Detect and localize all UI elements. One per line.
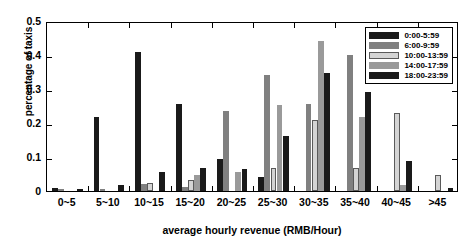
bar xyxy=(52,188,58,191)
legend-label: 6:00-9:59 xyxy=(404,42,439,50)
x-axis-tick xyxy=(171,186,172,191)
legend-item: 0:00-5:59 xyxy=(369,31,448,40)
legend-label: 0:00-5:59 xyxy=(404,32,439,40)
bar xyxy=(188,180,194,191)
bar xyxy=(258,177,264,191)
x-axis-tick xyxy=(418,186,419,191)
y-axis-tick xyxy=(47,91,52,92)
x-axis-tick xyxy=(335,186,336,191)
bar xyxy=(147,183,153,191)
bar xyxy=(100,189,106,191)
legend-label: 10:00-13:59 xyxy=(404,52,448,60)
x-axis-label: average hourly revenue (RMB/Hour) xyxy=(46,224,458,236)
bar xyxy=(176,104,182,191)
bar xyxy=(264,75,270,191)
bar xyxy=(353,168,359,191)
y-axis-tick xyxy=(452,159,457,160)
legend-item: 6:00-9:59 xyxy=(369,41,448,50)
y-axis-tick-label: 0.1 xyxy=(0,152,41,163)
x-axis-tick xyxy=(294,23,295,28)
x-axis-tick xyxy=(335,23,336,28)
x-axis-tick xyxy=(129,186,130,191)
bar xyxy=(324,73,330,191)
x-axis-tick xyxy=(171,23,172,28)
bar xyxy=(406,161,412,191)
bar xyxy=(141,184,147,191)
x-axis-tick xyxy=(129,23,130,28)
bar xyxy=(347,55,353,191)
y-axis-tick xyxy=(452,125,457,126)
bar xyxy=(435,175,441,191)
bar xyxy=(223,111,229,191)
legend-label: 14:00-17:59 xyxy=(404,62,448,70)
y-axis-tick xyxy=(452,91,457,92)
bar xyxy=(235,172,241,191)
bar xyxy=(400,185,406,191)
x-axis-tick xyxy=(212,23,213,28)
bar xyxy=(159,172,165,191)
x-axis-tick xyxy=(253,23,254,28)
x-axis-tick xyxy=(88,186,89,191)
x-axis-tick xyxy=(212,186,213,191)
chart-legend: 0:00-5:596:00-9:5910:00-13:5914:00-17:59… xyxy=(365,27,453,84)
x-axis-tick xyxy=(253,186,254,191)
bar xyxy=(394,113,400,191)
x-axis-tick-label: >45 xyxy=(407,196,467,208)
y-axis-tick-label: 0.3 xyxy=(0,84,41,95)
bar xyxy=(194,175,200,191)
x-axis-tick xyxy=(377,186,378,191)
legend-item: 18:00-23:59 xyxy=(369,71,448,80)
bar xyxy=(277,105,283,191)
bar xyxy=(242,169,248,191)
bar xyxy=(94,117,100,191)
bar xyxy=(365,92,371,191)
legend-swatch xyxy=(369,32,399,39)
bar xyxy=(318,41,324,191)
legend-label: 18:00-23:59 xyxy=(404,72,448,80)
bar xyxy=(58,189,64,191)
plot-area: 0:00-5:596:00-9:5910:00-13:5914:00-17:59… xyxy=(46,22,458,192)
y-axis-tick-label: 0.2 xyxy=(0,118,41,129)
chart-figure: percentage of taxis average hourly reven… xyxy=(0,0,468,245)
y-axis-tick xyxy=(47,57,52,58)
bar xyxy=(283,136,289,191)
y-axis-tick-label: 0.5 xyxy=(0,16,41,27)
bar xyxy=(359,117,365,191)
bar xyxy=(135,52,141,191)
legend-swatch xyxy=(369,52,399,59)
bar xyxy=(271,168,277,191)
bar xyxy=(306,104,312,191)
y-axis-tick xyxy=(47,159,52,160)
bar xyxy=(217,159,223,191)
y-axis-tick-label: 0 xyxy=(0,186,41,197)
bar xyxy=(182,187,188,191)
legend-item: 10:00-13:59 xyxy=(369,51,448,60)
x-axis-tick xyxy=(294,186,295,191)
legend-swatch xyxy=(369,72,399,79)
bar xyxy=(77,189,83,191)
legend-item: 14:00-17:59 xyxy=(369,61,448,70)
bar xyxy=(448,188,454,191)
y-axis-tick-label: 0.4 xyxy=(0,50,41,61)
bar xyxy=(118,185,124,191)
y-axis-tick xyxy=(47,125,52,126)
x-axis-tick xyxy=(88,23,89,28)
bar xyxy=(312,120,318,191)
bar xyxy=(200,168,206,191)
legend-swatch xyxy=(369,62,399,69)
legend-swatch xyxy=(369,42,399,49)
